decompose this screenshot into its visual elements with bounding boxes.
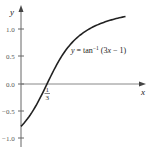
x-axis-label: x — [140, 87, 145, 97]
svg-text:3: 3 — [46, 94, 50, 102]
ytick-label: 1.0 — [6, 26, 15, 34]
y-axis-arrow-icon — [19, 5, 24, 12]
chart: y x 1.0 0.5 0.0 −0.5 −1.0 1 3 y = tan−1 … — [0, 0, 150, 149]
x-intercept-label: 1 3 — [45, 86, 51, 102]
ytick-label: −1.0 — [2, 135, 15, 143]
equation-label: y = tan−1 (3x − 1) — [70, 45, 126, 55]
ytick-label: 0.0 — [6, 81, 15, 89]
svg-text:1: 1 — [46, 86, 50, 94]
x-axis-arrow-icon — [139, 82, 146, 87]
ytick-label: 0.5 — [6, 53, 15, 61]
ytick-label: −0.5 — [2, 108, 15, 116]
y-axis-label: y — [9, 7, 14, 17]
function-curve — [21, 16, 126, 126]
